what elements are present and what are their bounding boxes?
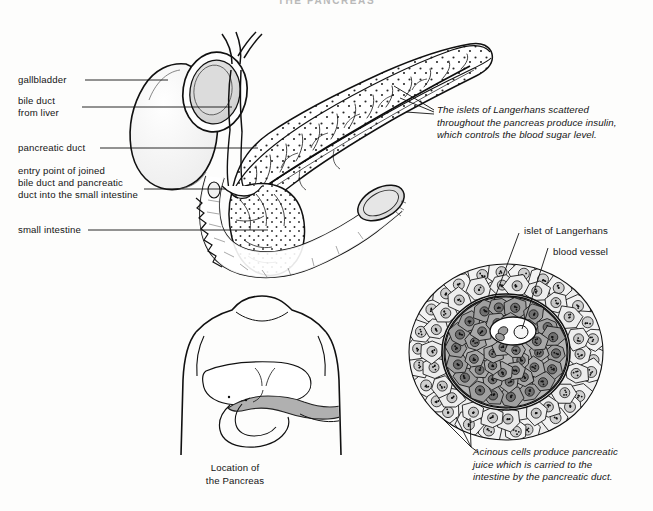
caption-location: Location of the Pancreas <box>176 461 294 487</box>
caption-islets-note: The islets of Langerhans scattered throu… <box>437 104 652 142</box>
pancreas-diagram-page: THE PANCREAS <box>0 0 653 511</box>
label-bile-duct: bile duct from liver <box>18 95 59 119</box>
torso-figure <box>181 296 377 455</box>
main-organ-figure <box>82 32 492 277</box>
label-pancreatic-duct: pancreatic duct <box>18 142 85 154</box>
islet-figure <box>404 233 607 452</box>
label-islet-of-langerhans: islet of Langerhans <box>524 225 608 237</box>
caption-acinous-note: Acinous cells produce pancreatic juice w… <box>473 446 653 484</box>
blood-vessel <box>490 317 536 345</box>
label-small-intestine: small intestine <box>18 224 81 236</box>
label-blood-vessel: blood vessel <box>553 246 608 258</box>
label-gallbladder: gallbladder <box>18 74 67 86</box>
label-entry-point: entry point of joined bile duct and panc… <box>18 165 138 202</box>
